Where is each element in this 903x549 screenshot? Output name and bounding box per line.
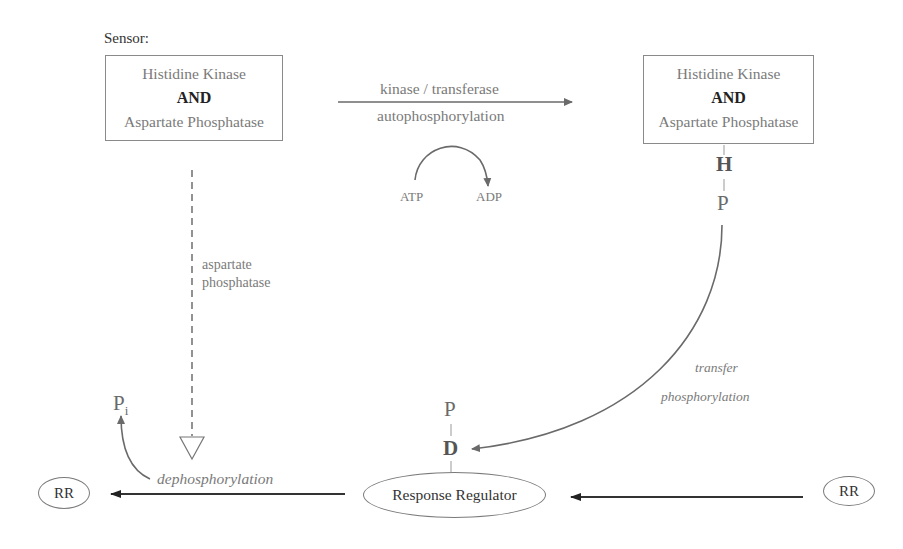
hollow-triangle-arrowhead (180, 437, 204, 459)
dephosphorylation-label: dephosphorylation (157, 470, 273, 488)
phosphate-on-aspartate: P (444, 397, 456, 422)
atp-adp-arc (415, 146, 488, 186)
rr-right-label: RR (839, 483, 859, 500)
aspartate-phosphatase-label-1: aspartate (202, 257, 252, 273)
adp-label: ADP (476, 189, 502, 205)
sensor-box-right: Histidine Kinase AND Aspartate Phosphata… (643, 55, 814, 144)
aspartate-phosphatase-label-2: phosphatase (202, 275, 270, 291)
pi-release-arc (121, 416, 150, 479)
rr-left-label: RR (54, 485, 74, 502)
box-line-2: AND (644, 86, 813, 110)
sensor-box-left: Histidine Kinase AND Aspartate Phosphata… (105, 55, 283, 141)
box-line-3: Aspartate Phosphatase (644, 110, 813, 134)
histidine-residue: H (716, 152, 732, 177)
pi-subscript: i (125, 403, 129, 418)
box-line-1: Histidine Kinase (644, 62, 813, 86)
response-regulator-node: Response Regulator (363, 472, 546, 518)
rr-node-right: RR (823, 476, 875, 506)
pi-p: P (113, 391, 125, 415)
atp-label: ATP (400, 189, 423, 205)
transfer-curve (472, 225, 722, 449)
sensor-label: Sensor: (104, 30, 149, 47)
autophosphorylation-label: autophosphorylation (377, 107, 504, 125)
aspartate-residue: D (443, 436, 458, 461)
rr-node-left: RR (38, 477, 90, 509)
box-line-1: Histidine Kinase (106, 62, 282, 86)
kinase-label: kinase / transferase (380, 80, 499, 98)
response-regulator-label: Response Regulator (392, 486, 516, 504)
transfer-phosphorylation-label: phosphorylation (661, 389, 750, 405)
box-line-3: Aspartate Phosphatase (106, 110, 282, 134)
phosphate-on-histidine: P (717, 191, 729, 216)
inorganic-phosphate: Pi (113, 391, 128, 419)
box-line-2: AND (106, 86, 282, 110)
transfer-label: transfer (695, 360, 738, 376)
